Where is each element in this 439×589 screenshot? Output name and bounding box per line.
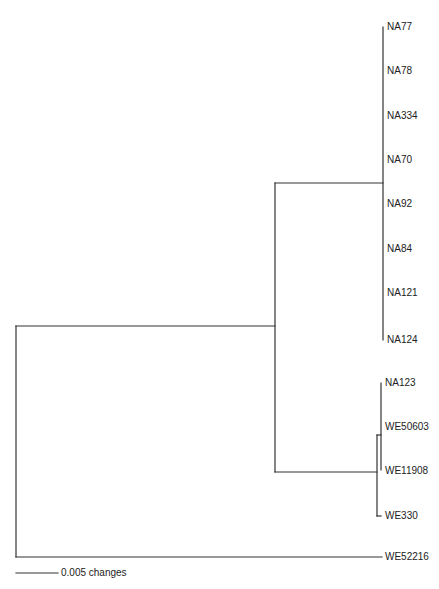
taxon-label: NA123 (385, 377, 416, 389)
taxon-label: NA124 (387, 334, 418, 346)
taxon-label: NA78 (387, 65, 412, 77)
taxon-label: NA84 (387, 243, 412, 255)
taxon-label: NA77 (387, 21, 412, 33)
taxon-label: NA121 (387, 287, 418, 299)
taxon-label: WE52216 (385, 551, 429, 563)
taxon-label: NA92 (387, 198, 412, 210)
taxon-label: WE50603 (385, 421, 429, 433)
scale-bar-label: 0.005 changes (61, 567, 127, 579)
taxon-label: WE11908 (385, 465, 428, 477)
taxon-label: WE330 (385, 510, 418, 522)
taxon-label: NA334 (387, 110, 418, 122)
phylogenetic-tree (0, 0, 439, 589)
taxon-label: NA70 (387, 154, 412, 166)
